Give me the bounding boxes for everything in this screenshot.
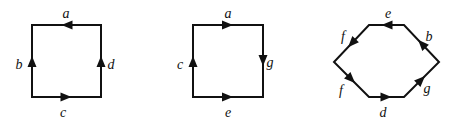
arrow-left-icon <box>62 21 73 30</box>
edge-label-f: f <box>341 29 347 44</box>
edge-label-c: c <box>177 57 184 72</box>
square-1-outline <box>32 25 101 97</box>
arrow-up-icon <box>189 56 198 67</box>
square-2: acge <box>177 6 274 120</box>
edge-label-f: f <box>339 83 345 98</box>
edge-label-e: e <box>385 6 391 21</box>
graph-diagrams: abdcacgeeffdgb <box>0 0 459 121</box>
edge-label-g: g <box>267 55 274 70</box>
edge-label-a: a <box>225 6 232 21</box>
hexagon: effdgb <box>334 6 439 120</box>
square-2-outline <box>193 25 263 97</box>
edge-label-b: b <box>16 57 23 72</box>
arrow-right-icon <box>61 93 72 102</box>
edge-label-g: g <box>424 81 431 96</box>
arrow-up-icon <box>97 56 106 67</box>
arrow-right-icon <box>222 93 233 102</box>
edge-label-b: b <box>426 29 433 44</box>
edge-label-e: e <box>225 105 231 120</box>
edge-label-d: d <box>108 57 116 72</box>
edge-label-d: d <box>380 105 388 120</box>
arrow-right-icon <box>222 21 233 30</box>
arrow-right-icon <box>381 93 392 102</box>
edge-label-a: a <box>63 6 70 21</box>
edge-label-c: c <box>60 105 67 120</box>
arrow-left-icon <box>382 21 393 30</box>
square-1: abdc <box>16 6 116 120</box>
arrow-up-icon <box>28 56 37 67</box>
